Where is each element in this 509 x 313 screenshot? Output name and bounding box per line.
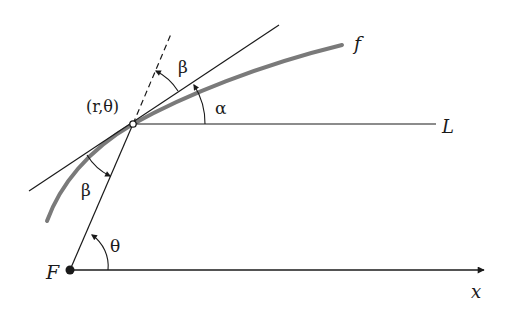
tangent-line — [29, 25, 279, 191]
label-beta-top: β — [178, 57, 188, 77]
polar-tangent-diagram: f (r,θ) L x F α β β θ — [0, 0, 509, 313]
point-r-theta — [130, 121, 136, 127]
label-beta-bottom: β — [81, 180, 91, 200]
label-theta: θ — [110, 236, 120, 256]
label-alpha: α — [215, 98, 227, 118]
curve-f — [47, 45, 342, 221]
label-point: (r,θ) — [86, 97, 119, 116]
radial-extension-dashed — [133, 34, 171, 124]
label-f: f — [352, 32, 364, 54]
label-x: x — [471, 281, 481, 302]
label-F: F — [45, 261, 60, 283]
angle-beta-top-arc — [156, 71, 178, 91]
angle-theta-arc — [92, 235, 108, 270]
focus-point — [66, 266, 75, 275]
label-L: L — [441, 116, 454, 137]
